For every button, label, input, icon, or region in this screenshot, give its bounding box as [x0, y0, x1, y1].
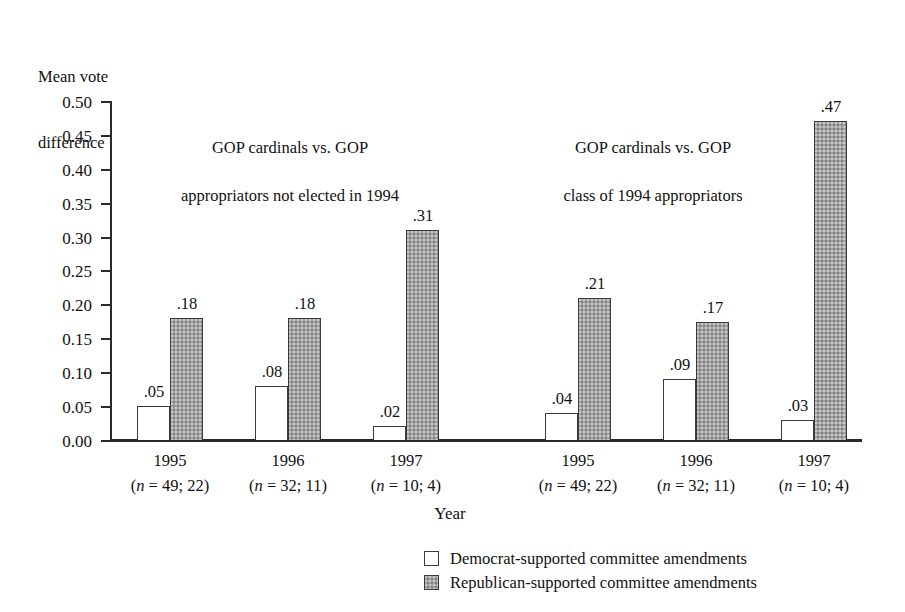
bar-label-rep-1996-right: .17: [683, 298, 743, 318]
x-group-n: (n = 32; 11): [636, 473, 756, 498]
x-group-n: (n = 10; 4): [754, 473, 874, 498]
y-tick-mark-025: [101, 270, 110, 272]
y-tick-mark-030: [101, 237, 110, 239]
x-axis-title: Year: [390, 504, 510, 524]
x-group-1997-left: 1997 (n = 10; 4): [346, 448, 466, 498]
bar-label-dem-1996-left: .08: [242, 362, 302, 382]
y-tick-label-040: 0.40: [30, 161, 92, 181]
bar-label-rep-1997-right: .47: [801, 97, 861, 117]
annotation-left-line1: GOP cardinals vs. GOP: [150, 136, 430, 160]
legend-label-democrat: Democrat-supported committee amendments: [450, 549, 747, 569]
bar-label-dem-1997-left: .02: [360, 402, 420, 422]
legend-item-democrat[interactable]: Democrat-supported committee amendments: [424, 548, 757, 569]
bar-rep-1996-right[interactable]: [696, 322, 729, 440]
bar-label-dem-1996-right: .09: [650, 355, 710, 375]
y-tick-mark-050: [101, 101, 110, 103]
y-tick-mark-005: [101, 406, 110, 408]
x-group-year: 1995: [110, 448, 230, 473]
legend-label-republican: Republican-supported committee amendment…: [450, 573, 757, 593]
legend-item-republican[interactable]: Republican-supported committee amendment…: [424, 572, 757, 593]
bar-label-dem-1997-right: .03: [768, 396, 828, 416]
y-tick-label-025: 0.25: [30, 262, 92, 282]
x-group-1997-right: 1997 (n = 10; 4): [754, 448, 874, 498]
y-tick-label-030: 0.30: [30, 229, 92, 249]
x-group-year: 1996: [228, 448, 348, 473]
y-tick-mark-015: [101, 338, 110, 340]
x-axis-line: [110, 439, 862, 442]
bar-label-rep-1995-left: .18: [157, 294, 217, 314]
annotation-left-panel: GOP cardinals vs. GOP appropriators not …: [150, 112, 430, 232]
legend-swatch-democrat: [424, 551, 439, 566]
bar-rep-1997-right[interactable]: [814, 121, 847, 440]
annotation-right-line2: class of 1994 appropriators: [508, 184, 798, 208]
bar-dem-1996-right[interactable]: [663, 379, 696, 440]
bar-label-rep-1997-left: .31: [393, 206, 453, 226]
y-tick-mark-045: [101, 135, 110, 137]
x-group-year: 1997: [346, 448, 466, 473]
bar-label-rep-1995-right: .21: [565, 274, 625, 294]
bar-dem-1997-right[interactable]: [781, 420, 814, 440]
y-tick-label-050: 0.50: [30, 93, 92, 113]
annotation-right-panel: GOP cardinals vs. GOP class of 1994 appr…: [508, 112, 798, 232]
y-axis-title-line1: Mean vote: [38, 66, 108, 88]
y-tick-mark-035: [101, 203, 110, 205]
chart-canvas: Mean vote difference 0.50 0.45 0.40 0.35…: [0, 0, 905, 612]
x-group-year: 1997: [754, 448, 874, 473]
bar-dem-1996-left[interactable]: [255, 386, 288, 440]
bar-dem-1995-right[interactable]: [545, 413, 578, 440]
x-group-year: 1996: [636, 448, 756, 473]
y-tick-mark-040: [101, 169, 110, 171]
bar-label-dem-1995-left: .05: [124, 382, 184, 402]
legend: Democrat-supported committee amendments …: [424, 548, 757, 596]
bar-label-dem-1995-right: .04: [532, 389, 592, 409]
legend-swatch-republican: [424, 575, 439, 590]
annotation-left-line2: appropriators not elected in 1994: [150, 184, 430, 208]
annotation-right-line1: GOP cardinals vs. GOP: [508, 136, 798, 160]
x-group-1995-left: 1995 (n = 49; 22): [110, 448, 230, 498]
x-group-n: (n = 49; 22): [518, 473, 638, 498]
y-tick-label-020: 0.20: [30, 296, 92, 316]
y-tick-label-010: 0.10: [30, 364, 92, 384]
y-axis-line: [110, 101, 112, 440]
y-tick-label-045: 0.45: [30, 127, 92, 147]
x-group-1996-right: 1996 (n = 32; 11): [636, 448, 756, 498]
bar-label-rep-1996-left: .18: [275, 294, 335, 314]
bar-rep-1995-right[interactable]: [578, 298, 611, 440]
x-group-1995-right: 1995 (n = 49; 22): [518, 448, 638, 498]
x-group-n: (n = 32; 11): [228, 473, 348, 498]
y-tick-label-005: 0.05: [30, 398, 92, 418]
y-tick-label-035: 0.35: [30, 195, 92, 215]
y-tick-mark-020: [101, 304, 110, 306]
x-group-n: (n = 10; 4): [346, 473, 466, 498]
y-tick-label-015: 0.15: [30, 330, 92, 350]
x-group-n: (n = 49; 22): [110, 473, 230, 498]
bar-dem-1997-left[interactable]: [373, 426, 406, 440]
x-group-year: 1995: [518, 448, 638, 473]
bar-dem-1995-left[interactable]: [137, 406, 170, 440]
y-tick-mark-010: [101, 372, 110, 374]
bar-rep-1995-left[interactable]: [170, 318, 203, 440]
y-tick-mark-000: [101, 440, 110, 442]
y-tick-label-000: 0.00: [30, 432, 92, 452]
x-group-1996-left: 1996 (n = 32; 11): [228, 448, 348, 498]
